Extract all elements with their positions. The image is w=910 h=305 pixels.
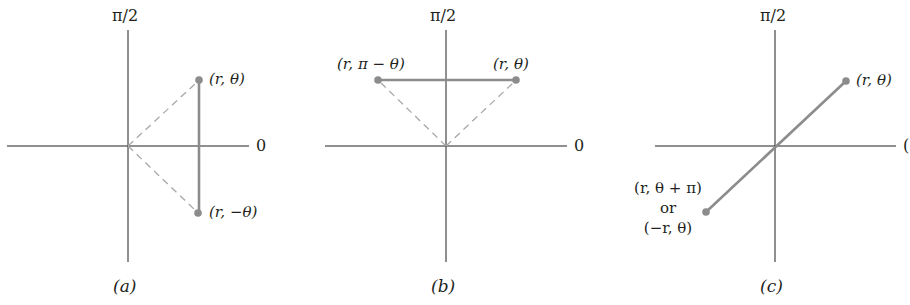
polar-symmetry-figure: π/2 0 (r, θ) (r, −θ) (a) π/2 0 (r, π − θ… <box>0 0 910 305</box>
panel-b-caption: (b) <box>431 278 455 295</box>
panel-a-point-r-theta <box>195 76 203 84</box>
panel-b-axis-right-label: 0 <box>574 138 584 154</box>
panel-a-point-r-neg-theta <box>194 209 202 217</box>
panel-c-point-r-theta <box>842 77 850 85</box>
panel-c-point-label-upper: (r, θ) <box>856 73 892 88</box>
panel-a-axis-right-label: 0 <box>256 138 266 154</box>
panel-c-point-label-lower-line1: (r, θ + π) <box>628 178 708 198</box>
panel-b-axis-top-label: π/2 <box>430 8 456 24</box>
figure-graphics <box>0 0 910 305</box>
panel-a-point-label-lower: (r, −θ) <box>209 205 257 220</box>
panel-c-point-label-lower-line3: (−r, θ) <box>628 218 708 238</box>
panel-b-dashed-ray-right <box>446 83 513 146</box>
panel-b-point-r-theta <box>512 76 520 84</box>
panel-b-dashed-ray-left <box>381 83 446 146</box>
panel-a-caption: (a) <box>113 278 136 295</box>
panel-a-graphics <box>7 30 249 262</box>
panel-b-point-label-right: (r, θ) <box>493 57 529 72</box>
panel-c-point-label-lower-line2: or <box>628 198 708 218</box>
panel-a-dashed-ray-upper <box>128 83 196 146</box>
panel-b-point-label-left: (r, π − θ) <box>337 57 405 72</box>
panel-c-caption: (c) <box>760 278 783 295</box>
panel-c-axis-top-label: π/2 <box>760 8 786 24</box>
panel-a-dashed-ray-lower <box>128 146 195 210</box>
panel-a-point-label-upper: (r, θ) <box>209 72 245 87</box>
panel-a-axis-top-label: π/2 <box>112 8 138 24</box>
panel-b-point-r-pi-minus-theta <box>374 76 382 84</box>
panel-c-point-label-lower: (r, θ + π) or (−r, θ) <box>628 178 708 238</box>
panel-c-axis-right-label: ( <box>903 138 909 154</box>
